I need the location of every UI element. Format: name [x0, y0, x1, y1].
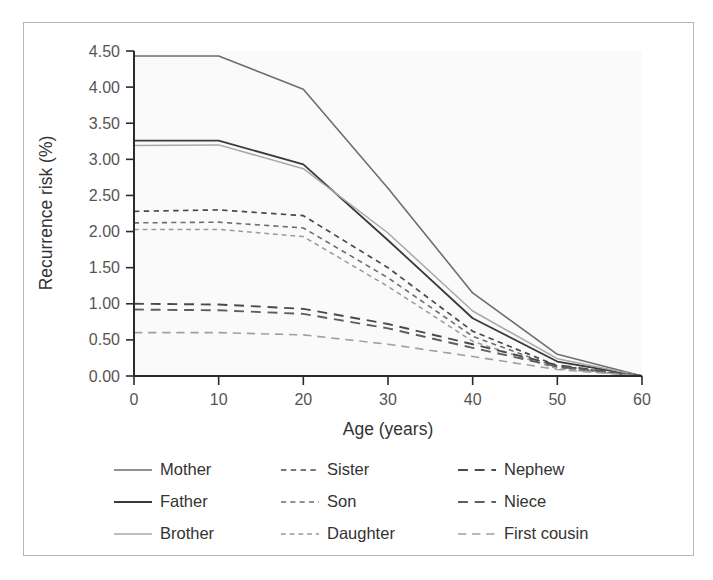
y-tick-label: 1.00 — [89, 295, 120, 312]
y-tick-label: 0.50 — [89, 331, 120, 348]
x-tick-label: 20 — [294, 391, 312, 408]
x-axis-title: Age (years) — [343, 419, 433, 439]
legend-label-father: Father — [160, 492, 208, 510]
legend-label-sister: Sister — [327, 460, 370, 478]
legend-label-mother: Mother — [160, 460, 212, 478]
x-tick-label: 10 — [210, 391, 228, 408]
x-tick-label: 0 — [130, 391, 139, 408]
y-tick-label: 2.00 — [89, 223, 120, 240]
legend-label-first-cousin: First cousin — [504, 524, 588, 542]
recurrence-risk-line-chart: 0.000.501.001.502.002.503.003.504.004.50… — [24, 23, 693, 555]
y-tick-label: 3.00 — [89, 151, 120, 168]
y-tick-label: 0.00 — [89, 368, 120, 385]
figure-panel: 0.000.501.001.502.002.503.003.504.004.50… — [23, 22, 694, 556]
y-tick-label: 1.50 — [89, 259, 120, 276]
legend-label-daughter: Daughter — [327, 524, 395, 542]
x-tick-label: 40 — [464, 391, 482, 408]
chart-legend: MotherFatherBrotherSisterSonDaughterNeph… — [114, 460, 588, 542]
y-axis-title: Recurrence risk (%) — [36, 136, 56, 291]
plot-area-background — [134, 51, 642, 376]
y-tick-label: 4.00 — [89, 79, 120, 96]
legend-label-niece: Niece — [504, 492, 546, 510]
legend-label-nephew: Nephew — [504, 460, 565, 478]
x-tick-label: 60 — [633, 391, 651, 408]
legend-label-brother: Brother — [160, 524, 215, 542]
legend-label-son: Son — [327, 492, 356, 510]
y-tick-label: 4.50 — [89, 43, 120, 60]
x-tick-label: 30 — [379, 391, 397, 408]
x-tick-label: 50 — [548, 391, 566, 408]
y-tick-label: 3.50 — [89, 115, 120, 132]
y-tick-label: 2.50 — [89, 187, 120, 204]
